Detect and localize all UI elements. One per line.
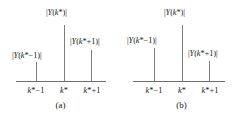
panel-b-stem-kplus1 xyxy=(209,61,210,81)
panel-a-stem-kplus1 xyxy=(91,50,92,81)
stem-plot-figure: |Y(k*−1)| |Y(k*)| |Y(k*+1)| k*−1 k* k*+1… xyxy=(0,0,242,120)
panel-a: |Y(k*−1)| |Y(k*)| |Y(k*+1)| k*−1 k* k*+1… xyxy=(0,0,121,120)
panel-b-label-kplus1: |Y(k*+1)| xyxy=(188,50,218,58)
panel-a-stem-kminus1 xyxy=(36,62,37,81)
panel-b-label-kminus1: |Y(k*−1)| xyxy=(127,37,157,45)
panel-a-label-k: |Y(k*)| xyxy=(46,9,67,17)
panel-b-tick-kplus1: k*+1 xyxy=(190,87,230,95)
panel-a-tick-kplus1: k*+1 xyxy=(72,87,112,95)
panel-b-stem-kminus1 xyxy=(154,48,155,81)
panel-b: |Y(k*−1)| |Y(k*)| |Y(k*+1)| k*−1 k* k*+1… xyxy=(121,0,242,120)
panel-b-stem-k xyxy=(182,25,183,81)
panel-b-axis-line xyxy=(133,81,225,82)
panel-a-stem-k xyxy=(64,25,65,81)
panel-b-label-k: |Y(k*)| xyxy=(164,9,185,17)
panel-b-plot-area: |Y(k*−1)| |Y(k*)| |Y(k*+1)| k*−1 k* k*+1… xyxy=(121,0,242,120)
panel-a-plot-area: |Y(k*−1)| |Y(k*)| |Y(k*+1)| k*−1 k* k*+1… xyxy=(0,0,121,120)
panel-a-caption: (a) xyxy=(0,101,121,110)
panel-b-caption: (b) xyxy=(121,101,242,110)
panel-a-axis-line xyxy=(16,81,106,82)
panel-a-label-kminus1: |Y(k*−1)| xyxy=(12,52,42,60)
panel-a-label-kplus1: |Y(k*+1)| xyxy=(70,38,100,46)
